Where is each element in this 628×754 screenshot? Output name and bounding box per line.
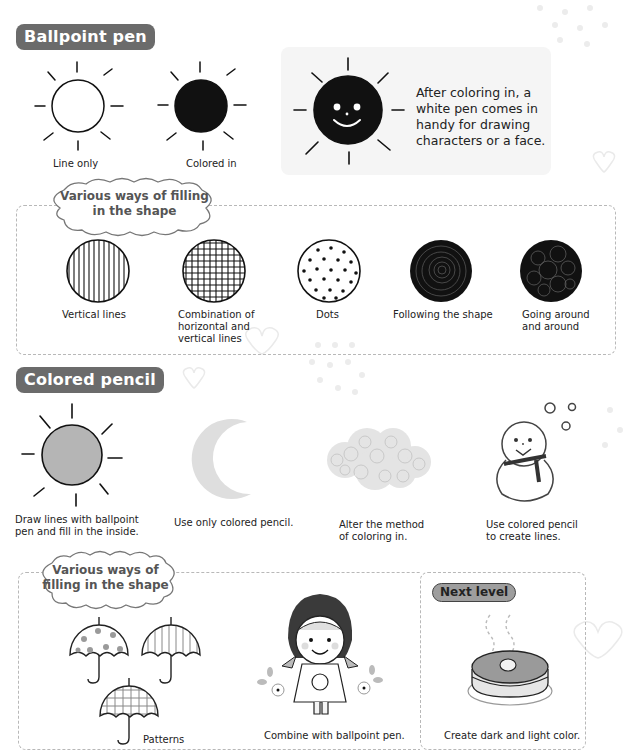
- cloud-scribble-icon: [315, 420, 440, 500]
- tip-text: After coloring in, a white pen comes in …: [416, 85, 545, 149]
- caption-grid: Combination of horizontal and vertical l…: [178, 309, 254, 345]
- caption-alter-method: Alter the method of coloring in.: [339, 519, 424, 543]
- crescent-moon-icon: [185, 416, 265, 501]
- section-label-ballpoint-pen: Ballpoint pen: [16, 24, 155, 50]
- umbrella-stripes-icon: [140, 615, 202, 685]
- dots-circle-icon: [296, 238, 362, 304]
- caption-dots: Dots: [316, 309, 339, 321]
- caption-combine: Combine with ballpoint pen.: [264, 730, 405, 742]
- caption-patterns: Patterns: [143, 734, 184, 746]
- caption-vertical-lines: Vertical lines: [62, 309, 126, 321]
- next-level-badge: Next level: [432, 583, 516, 602]
- fill-ways-title-ballpoint: Various ways of filling in the shape: [52, 189, 217, 219]
- caption-colored-only: Use only colored pencil.: [174, 517, 293, 529]
- sun-filled-icon: [158, 60, 248, 150]
- snowman-icon: [492, 398, 587, 506]
- vertical-lines-circle-icon: [65, 238, 131, 304]
- fill-ways-title-colored-pencil: Various ways of filling in the shape: [38, 563, 173, 593]
- sun-smiley-icon: [294, 58, 404, 168]
- caption-line-only: Line only: [53, 158, 98, 170]
- caption-create-lines: Use colored pencil to create lines.: [486, 519, 578, 543]
- caption-ballpoint-fill: Draw lines with ballpoint pen and fill i…: [15, 514, 139, 538]
- caption-dark-light: Create dark and light color.: [444, 730, 580, 742]
- umbrella-dots-icon: [68, 615, 130, 685]
- caption-colored-in: Colored in: [186, 158, 237, 170]
- sun-outline-icon: [35, 60, 125, 150]
- spiral-circle-icon: [408, 238, 474, 304]
- grid-circle-icon: [181, 238, 247, 304]
- girl-hood-icon: [254, 590, 384, 720]
- scribble-circle-icon: [518, 238, 584, 304]
- pancake-icon: [458, 605, 568, 715]
- caption-going-around: Going around and around: [522, 309, 590, 333]
- sun-gray-icon: [20, 402, 124, 506]
- caption-following-shape: Following the shape: [393, 309, 493, 321]
- section-label-colored-pencil: Colored pencil: [16, 367, 164, 393]
